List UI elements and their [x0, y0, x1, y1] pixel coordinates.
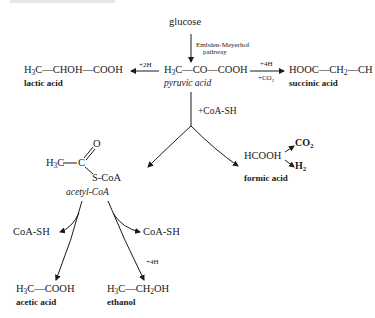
- acetyl-coa-name: acetyl-CoA: [66, 187, 109, 197]
- succinic-acid-name: succinic acid: [289, 78, 338, 88]
- succinic-condition-bottom: +CO2: [258, 74, 274, 83]
- formic-product-h2: H2: [295, 160, 306, 173]
- acetic-acid-name: acetic acid: [16, 297, 56, 307]
- arrow-to-formic: [191, 126, 238, 166]
- ethanol-condition: +4H: [146, 258, 159, 266]
- glucose-label: glucose: [169, 16, 201, 27]
- ethanol-name: ethanol: [107, 297, 136, 307]
- arrow-acetyl-acetic: [56, 201, 82, 280]
- formic-acid-name: formic acid: [244, 173, 288, 183]
- ethanol-coa-released: CoA-SH: [143, 226, 180, 237]
- lactic-acid-name: lactic acid: [24, 78, 63, 88]
- acetyl-coa-h3c: H3C: [46, 157, 64, 170]
- coa-step-label: +CoA-SH: [198, 106, 237, 116]
- ethanol-formula: H3C—CH2OH: [107, 283, 169, 296]
- arrow-to-acetyl-coa: [148, 126, 191, 167]
- arrow-formic-co2: [285, 146, 294, 152]
- lactic-condition: +2H: [139, 61, 152, 69]
- succinic-acid-formula: HOOC—CH2—CH: [289, 64, 373, 77]
- succinic-condition-top: +4H: [260, 60, 273, 68]
- formic-product-co2: CO2: [295, 137, 314, 150]
- arrow-formic-h2: [285, 160, 294, 167]
- acetyl-coa-oxygen: O: [93, 138, 101, 149]
- acetic-coa-released: CoA-SH: [13, 226, 50, 237]
- formic-acid-formula: HCOOH: [244, 150, 281, 161]
- lactic-acid-formula: H3C—CHOH—COOH: [24, 64, 123, 77]
- acetyl-coa-scoa: S-CoA: [92, 172, 121, 183]
- pyruvic-acid-formula: H3C—CO—COOH: [164, 64, 248, 77]
- pyruvic-acid-name: pyruvic acid: [164, 78, 211, 88]
- acetyl-coa-carbonyl-carbon: C: [78, 157, 85, 168]
- acetic-acid-formula: H3C—COOH: [16, 283, 75, 296]
- pathway-label-line2: pathway: [203, 48, 227, 56]
